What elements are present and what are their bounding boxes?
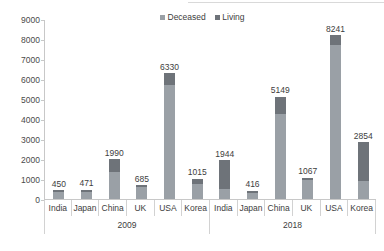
category-label-2018-korea: Korea xyxy=(348,200,376,216)
y-axis-tick-label: 0 xyxy=(35,196,40,205)
y-axis-tick-label: 9000 xyxy=(21,16,40,25)
bar-segment-living[interactable] xyxy=(109,159,120,171)
bar-stack[interactable]: 1944 xyxy=(219,160,230,199)
bar-stack[interactable]: 6330 xyxy=(164,73,175,199)
y-axis-tick-label: 6000 xyxy=(21,76,40,85)
y-axis-tick-mark xyxy=(41,100,44,101)
y-axis-tick-mark xyxy=(41,140,44,141)
bar-value-label: 685 xyxy=(135,175,149,184)
bar-value-label: 6330 xyxy=(160,63,179,72)
bar-segment-living[interactable] xyxy=(275,97,286,114)
bar-segment-deceased[interactable] xyxy=(247,193,258,199)
y-axis-tick-label: 7000 xyxy=(21,56,40,65)
legend-swatch-deceased-icon xyxy=(160,15,165,20)
bar-segment-living[interactable] xyxy=(219,160,230,189)
category-label-2018-india: India xyxy=(210,200,238,216)
y-axis-tick-label: 4000 xyxy=(21,116,40,125)
bar-stack[interactable]: 450 xyxy=(53,190,64,199)
bar-2018-uk[interactable]: 1067 xyxy=(302,178,313,199)
bar-2009-japan[interactable]: 471 xyxy=(81,190,92,199)
category-label-2009-japan: Japan xyxy=(72,200,100,216)
bar-segment-deceased[interactable] xyxy=(358,181,369,199)
bar-segment-living[interactable] xyxy=(330,35,341,45)
bar-2018-china[interactable]: 5149 xyxy=(275,97,286,199)
bar-value-label: 471 xyxy=(79,179,93,188)
bar-value-label: 1990 xyxy=(105,149,124,158)
y-axis-tick-label: 3000 xyxy=(21,136,40,145)
y-axis-tick-label: 1000 xyxy=(21,176,40,185)
bar-segment-deceased[interactable] xyxy=(136,187,147,199)
bar-2009-uk[interactable]: 685 xyxy=(136,185,147,199)
bar-value-label: 2854 xyxy=(354,132,373,141)
bar-stack[interactable]: 471 xyxy=(81,190,92,199)
y-axis-tick-label: 8000 xyxy=(21,36,40,45)
y-axis-tick-mark xyxy=(41,180,44,181)
bar-2018-japan[interactable]: 416 xyxy=(247,191,258,199)
bar-2009-usa[interactable]: 6330 xyxy=(164,73,175,199)
category-label-2018-japan: Japan xyxy=(238,200,266,216)
bar-stack[interactable]: 685 xyxy=(136,185,147,199)
bars-layer: 4504711990685633010151944416514910678241… xyxy=(45,20,376,199)
category-label-2009-india: India xyxy=(44,200,72,216)
bar-value-label: 1944 xyxy=(215,150,234,159)
bar-stack[interactable]: 1990 xyxy=(109,159,120,199)
plot-area: 9000800070006000500040003000200010000 45… xyxy=(44,20,376,200)
group-axis: 20092018 xyxy=(44,216,376,234)
bar-segment-deceased[interactable] xyxy=(164,85,175,199)
bar-value-label: 1015 xyxy=(188,168,207,177)
bar-2009-china[interactable]: 1990 xyxy=(109,159,120,199)
bar-segment-deceased[interactable] xyxy=(109,172,120,199)
stacked-bar-chart: Deceased Living 900080007000600050004000… xyxy=(0,0,384,251)
bar-value-label: 5149 xyxy=(271,86,290,95)
bar-stack[interactable]: 2854 xyxy=(358,142,369,199)
category-label-2009-uk: UK xyxy=(127,200,155,216)
group-label-2009: 2009 xyxy=(44,216,210,234)
top-divider xyxy=(188,2,384,3)
category-label-2009-china: China xyxy=(99,200,127,216)
y-axis-tick-mark xyxy=(41,160,44,161)
y-axis-tick-label: 2000 xyxy=(21,156,40,165)
category-label-2009-korea: Korea xyxy=(182,200,210,216)
bar-segment-deceased[interactable] xyxy=(302,180,313,199)
bar-stack[interactable]: 5149 xyxy=(275,97,286,199)
y-axis-tick-mark xyxy=(41,120,44,121)
category-label-2018-usa: USA xyxy=(321,200,349,216)
legend-swatch-living-icon xyxy=(215,15,220,20)
y-axis-tick-mark xyxy=(41,20,44,21)
bar-value-label: 450 xyxy=(52,180,66,189)
bar-segment-deceased[interactable] xyxy=(219,189,230,199)
bar-2009-india[interactable]: 450 xyxy=(53,190,64,199)
bar-segment-deceased[interactable] xyxy=(81,192,92,199)
group-label-2018: 2018 xyxy=(210,216,376,234)
bar-segment-deceased[interactable] xyxy=(275,114,286,199)
bar-segment-deceased[interactable] xyxy=(53,192,64,199)
y-axis-tick-label: 5000 xyxy=(21,96,40,105)
bar-stack[interactable]: 1067 xyxy=(302,178,313,199)
category-label-2009-usa: USA xyxy=(155,200,183,216)
bar-value-label: 8241 xyxy=(326,25,345,34)
bar-2009-korea[interactable]: 1015 xyxy=(192,179,203,199)
category-label-2018-uk: UK xyxy=(293,200,321,216)
y-axis-tick-mark xyxy=(41,60,44,61)
bar-segment-deceased[interactable] xyxy=(192,184,203,199)
bar-stack[interactable]: 8241 xyxy=(330,35,341,199)
bar-stack[interactable]: 1015 xyxy=(192,179,203,199)
bar-2018-korea[interactable]: 2854 xyxy=(358,142,369,199)
bar-segment-deceased[interactable] xyxy=(330,45,341,199)
bar-segment-living[interactable] xyxy=(358,142,369,180)
y-axis-tick-mark xyxy=(41,80,44,81)
bar-2018-usa[interactable]: 8241 xyxy=(330,35,341,199)
bar-value-label: 1067 xyxy=(298,167,317,176)
bar-stack[interactable]: 416 xyxy=(247,191,258,199)
bar-2018-india[interactable]: 1944 xyxy=(219,160,230,199)
y-axis-tick-mark xyxy=(41,40,44,41)
bar-value-label: 416 xyxy=(245,180,259,189)
bar-segment-living[interactable] xyxy=(164,73,175,85)
category-label-2018-china: China xyxy=(265,200,293,216)
category-axis: IndiaJapanChinaUKUSAKoreaIndiaJapanChina… xyxy=(44,200,376,216)
